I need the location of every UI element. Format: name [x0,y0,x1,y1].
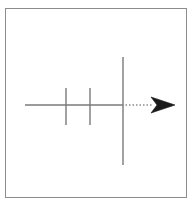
figure-container [0,0,194,211]
schematic-drawing [0,0,194,211]
arrow-head-icon [151,97,175,113]
